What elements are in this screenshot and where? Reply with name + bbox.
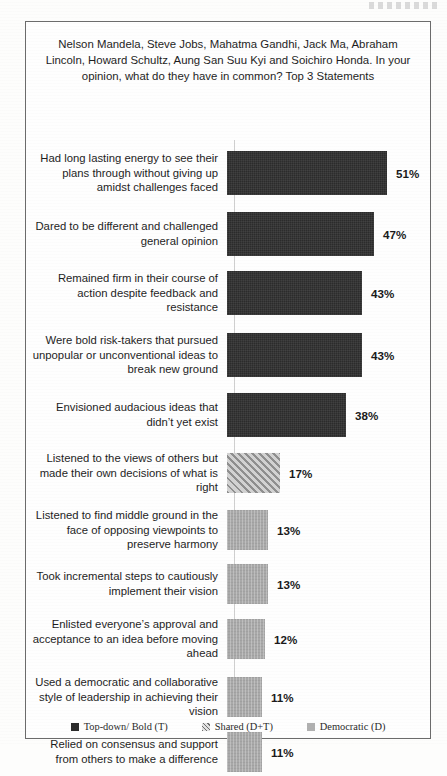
scan-artifact <box>369 2 439 9</box>
bar-track: 38% <box>227 393 430 437</box>
bar-track: 13% <box>227 510 430 550</box>
bar-value-label: 17% <box>289 467 312 480</box>
bar-row: Listened to the views of others but made… <box>26 444 430 502</box>
bar-row: Dared to be different and challenged gen… <box>26 206 430 262</box>
bar-row: Were bold risk-takers that pursued unpop… <box>26 324 430 386</box>
chart-legend: Top-down/ Bold (T) Shared (D+T) Democrat… <box>26 721 430 732</box>
bar-value-label: 47% <box>383 228 406 241</box>
bar-topdown[interactable] <box>227 271 362 315</box>
bar-value-label: 38% <box>355 409 378 422</box>
chart-frame: Nelson Mandela, Steve Jobs, Mahatma Gand… <box>25 21 431 739</box>
bar-track: 13% <box>227 564 430 604</box>
bar-democratic[interactable] <box>227 732 262 772</box>
legend-label: Top-down/ Bold (T) <box>84 721 168 732</box>
bar-value-label: 12% <box>274 633 297 646</box>
bar-value-label: 51% <box>396 167 419 180</box>
bar-category-label: Remained firm in their course of action … <box>26 271 226 315</box>
legend-item-topdown[interactable]: Top-down/ Bold (T) <box>71 721 168 732</box>
bar-row: Remained firm in their course of action … <box>26 262 430 324</box>
bar-track: 12% <box>227 619 430 659</box>
bar-row: Envisioned audacious ideas that didn’t y… <box>26 386 430 444</box>
bar-value-label: 13% <box>277 524 300 537</box>
bar-category-label: Relied on consensus and support from oth… <box>26 737 226 766</box>
bar-row: Took incremental steps to cautiously imp… <box>26 558 430 610</box>
shared-hatch-swatch-icon <box>202 723 210 731</box>
bar-category-label: Had long lasting energy to see their pla… <box>26 151 226 195</box>
bar-topdown[interactable] <box>227 151 387 195</box>
bar-row: Had long lasting energy to see their pla… <box>26 140 430 206</box>
bar-democratic[interactable] <box>227 510 268 550</box>
legend-item-shared[interactable]: Shared (D+T) <box>202 721 273 732</box>
bar-track: 51% <box>227 151 430 195</box>
bar-category-label: Envisioned audacious ideas that didn’t y… <box>26 400 226 429</box>
bar-track: 11% <box>227 677 430 717</box>
bar-democratic[interactable] <box>227 564 268 604</box>
bar-row: Used a democratic and collaborative styl… <box>26 668 430 726</box>
bar-track: 43% <box>227 333 430 377</box>
bar-category-label: Listened to find middle ground in the fa… <box>26 508 226 552</box>
legend-label: Democratic (D) <box>320 721 385 732</box>
bar-category-label: Took incremental steps to cautiously imp… <box>26 569 226 598</box>
bar-value-label: 11% <box>271 746 294 759</box>
legend-label: Shared (D+T) <box>215 721 273 732</box>
bar-democratic[interactable] <box>227 677 262 717</box>
bar-shared[interactable] <box>227 453 280 493</box>
bar-democratic[interactable] <box>227 619 265 659</box>
bar-track: 47% <box>227 212 430 256</box>
topdown-swatch-icon <box>71 723 79 731</box>
bar-category-label: Were bold risk-takers that pursued unpop… <box>26 333 226 377</box>
democratic-swatch-icon <box>307 723 315 731</box>
bar-topdown[interactable] <box>227 212 374 256</box>
bar-row: Relied on consensus and support from oth… <box>26 726 430 776</box>
chart-title: Nelson Mandela, Steve Jobs, Mahatma Gand… <box>42 36 414 85</box>
bar-value-label: 13% <box>277 578 300 591</box>
legend-item-democratic[interactable]: Democratic (D) <box>307 721 385 732</box>
bar-row: Listened to find middle ground in the fa… <box>26 502 430 558</box>
bar-category-label: Dared to be different and challenged gen… <box>26 219 226 248</box>
bar-row: Enlisted everyone’s approval and accepta… <box>26 610 430 668</box>
bar-category-label: Used a democratic and collaborative styl… <box>26 675 226 719</box>
bar-value-label: 43% <box>371 287 394 300</box>
bar-topdown[interactable] <box>227 333 362 377</box>
bar-value-label: 11% <box>271 691 294 704</box>
bar-topdown[interactable] <box>227 393 346 437</box>
plot-area: Had long lasting energy to see their pla… <box>26 140 430 696</box>
bar-category-label: Enlisted everyone’s approval and accepta… <box>26 617 226 661</box>
bar-category-label: Listened to the views of others but made… <box>26 451 226 495</box>
bar-track: 17% <box>227 453 430 493</box>
bar-track: 11% <box>227 732 430 772</box>
bar-value-label: 43% <box>371 349 394 362</box>
bar-track: 43% <box>227 271 430 315</box>
